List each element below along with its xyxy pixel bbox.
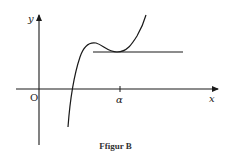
- x-axis-label: x: [209, 94, 215, 104]
- origin-label: O: [30, 93, 38, 103]
- alpha-label: α: [116, 95, 123, 105]
- figure-caption: Ffigur B: [0, 141, 231, 151]
- y-axis-label: y: [28, 14, 34, 24]
- function-curve: [68, 15, 146, 127]
- figure-canvas: [0, 0, 231, 163]
